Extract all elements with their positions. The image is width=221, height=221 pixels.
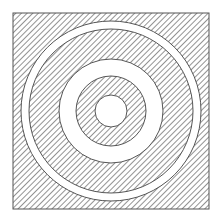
concentric-rings-diagram	[0, 0, 221, 221]
center-white-disc	[95, 95, 127, 127]
